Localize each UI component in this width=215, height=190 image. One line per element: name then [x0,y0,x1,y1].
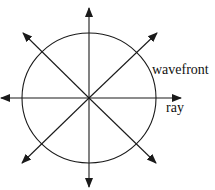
wavefront-label: wavefront [152,62,209,77]
wavefront-ray-diagram: wavefront ray [0,0,215,190]
ray-up-left-arrow-icon [23,33,89,98]
ray-down-right-arrow-icon [89,98,156,163]
ray-down-left-arrow-icon [22,98,89,163]
ray-label: ray [166,100,184,115]
rays [1,8,181,187]
